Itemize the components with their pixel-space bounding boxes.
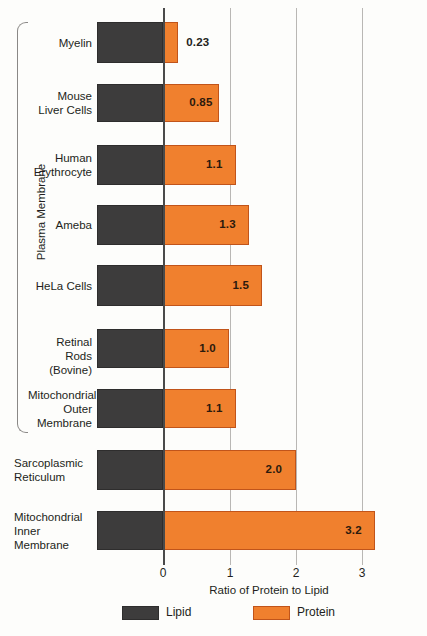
bar-lipid <box>97 389 163 428</box>
bar-protein <box>163 205 249 245</box>
bar-protein <box>163 389 236 428</box>
row-label: Human Erythrocyte <box>28 151 92 179</box>
bar-lipid <box>97 511 163 550</box>
x-axis-title: Ratio of Protein to Lipid <box>154 584 384 596</box>
chart-legend: Lipid Protein <box>0 604 427 626</box>
chart-canvas: Plasma Membrane Myelin0.23Mouse Liver Ce… <box>0 0 427 636</box>
bar-lipid <box>97 450 163 490</box>
legend-swatch-protein <box>253 606 290 620</box>
x-tick-0: 0 <box>151 566 175 580</box>
gridline-2 <box>296 8 297 565</box>
bar-lipid <box>97 22 163 63</box>
bar-protein <box>163 145 236 185</box>
bar-value-label: 1.1 <box>206 402 223 414</box>
gridline-3 <box>362 8 363 565</box>
legend-label-protein: Protein <box>297 605 335 619</box>
bar-protein <box>163 511 375 550</box>
bar-value-label: 0.23 <box>186 36 209 48</box>
row-label: Mitochondrial Inner Membrane <box>14 510 94 552</box>
legend-swatch-lipid <box>122 606 159 620</box>
bar-value-label: 3.2 <box>345 524 362 536</box>
row-label: Mitochondrial Outer Membrane <box>28 388 92 430</box>
x-tick-1: 1 <box>218 566 242 580</box>
row-label: Myelin <box>28 36 92 50</box>
bar-value-label: 1.3 <box>219 218 236 230</box>
row-label: Ameba <box>28 218 92 232</box>
bar-value-label: 1.1 <box>206 158 223 170</box>
x-tick-3: 3 <box>350 566 374 580</box>
bar-lipid <box>97 329 163 368</box>
plasma-membrane-bracket: Plasma Membrane <box>17 22 28 433</box>
row-label: HeLa Cells <box>28 279 92 293</box>
bar-value-label: 0.85 <box>189 96 212 108</box>
bar-lipid <box>97 145 163 185</box>
row-label: Retinal Rods (Bovine) <box>28 335 92 377</box>
legend-label-lipid: Lipid <box>166 605 191 619</box>
bar-value-label: 1.5 <box>232 279 249 291</box>
bar-lipid <box>97 205 163 245</box>
bar-protein <box>163 22 178 63</box>
bar-lipid <box>97 265 163 306</box>
row-label: Mouse Liver Cells <box>28 89 92 117</box>
bar-lipid <box>97 84 163 122</box>
bar-value-label: 1.0 <box>199 342 216 354</box>
bar-value-label: 2.0 <box>266 463 283 475</box>
gridline-0 <box>163 8 165 565</box>
row-label: Sarcoplasmic Reticulum <box>14 456 94 484</box>
x-tick-2: 2 <box>284 566 308 580</box>
bar-protein <box>163 329 229 368</box>
